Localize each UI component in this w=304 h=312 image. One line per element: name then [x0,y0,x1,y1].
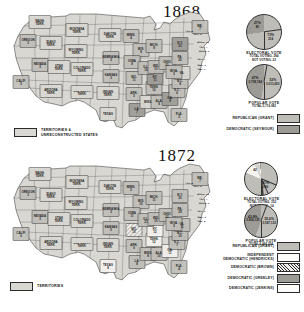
pie-slice-label: 73%214 [258,34,284,42]
legend-swatch [277,125,300,134]
pie-slice-label: 42 [242,169,268,173]
state-label: TERR. [47,43,56,47]
state-electoral-votes: 15 [154,219,158,223]
pie-slice-label: 81%286 [253,182,279,190]
state-electoral-votes: 10 [139,202,143,206]
pie-chart: 81%28642 [244,162,278,196]
state-electoral-votes: 33 [178,44,182,48]
state-label: TEXAS [103,112,113,116]
small-state-label: MASS. 13 [197,193,209,196]
legend-swatch [277,284,300,293]
small-state-label: MD. 8 [199,220,206,223]
state-label: TERR. [36,22,45,26]
territory-legend-label-1868: TERRITORIES &UNRECONSTRUCTED STATES [41,128,98,137]
state-label: TERR. [55,219,64,223]
small-state-label: CONN. 6 [199,202,210,205]
territory-legend-label-1872: TERRITORIES [37,284,63,289]
legend-row: DEMOCRATIC (SEYMOUR) [212,125,300,134]
legend-row: DEMOCRATIC (BROWN) [208,263,300,272]
state-label: TERR. [47,195,56,199]
state-electoral-votes: 10 [152,88,156,92]
legend-label: REPUBLICAN (GRANT) [233,116,274,120]
state-electoral-votes: 11 [132,78,135,82]
small-state-label: VT. 5 [187,30,194,33]
pie-slice-label: 43.8%2,834,125 [240,216,266,224]
state-label: VA. [180,71,185,75]
us-map-1872: WASH.TERR.OREGON3IDAHOTERR.MONTANATERR.D… [4,162,218,287]
small-state-label: MD. 7 [199,68,206,71]
legend-swatch [277,253,300,262]
state-electoral-votes: 29 [178,210,182,214]
legend-swatch [277,263,300,272]
state-label: TERR. [72,51,81,55]
state-electoral-votes: 11 [130,214,133,218]
pie-chart: 55.6%3,597,13243.8%2,834,125 [244,204,278,238]
territory-swatch-1868 [14,128,37,137]
state-label: TERR. [78,92,87,96]
party-legend-1872: REPUBLICAN (GRANT)INDEPENDENTDEMOCRATIC … [208,242,300,295]
state-electoral-votes: 12 [153,230,157,234]
election-map-1868: 1868 WASH.TERR.OREGON3IDAHOTERR.MONTANAT… [0,0,304,156]
legend-label: INDEPENDENTDEMOCRATIC (HENDRICKS) [223,253,274,261]
state-electoral-votes: 16 [144,68,148,72]
territory-legend-1868: TERRITORIES &UNRECONSTRUCTED STATES [14,128,134,137]
popular-vote-pie-1868: 53%3,013,65047%2,708,744POPULAR VOTETOTA… [246,64,282,109]
legend-swatch [277,114,300,123]
state-label: TERR. [73,30,82,34]
state-label: TERR. [47,243,56,247]
pie-chart: 53%3,013,65047%2,708,744 [246,64,282,100]
state-electoral-votes: 12 [152,240,156,244]
legend-swatch [277,274,300,283]
small-state-label: N.H. 5 [194,185,202,188]
legend-row: REPUBLICAN (GRANT) [208,242,300,251]
state-electoral-votes: 11 [152,198,155,202]
small-state-label: R.I. 4 [201,46,208,49]
small-state-label: CONN. 6 [199,50,210,53]
legend-label: DEMOCRATIC (BROWN) [231,265,274,269]
state-electoral-votes: 13 [154,67,158,71]
state-label: TERR. [36,174,45,178]
legend-row: DEMOCRATIC (JENKINS) [208,284,300,293]
party-legend-1868: REPUBLICAN (GRANT)DEMOCRATIC (SEYMOUR) [212,114,300,135]
legend-swatch [277,242,300,251]
legend-label: DEMOCRATIC (GREELEY) [228,276,275,280]
small-state-label: VT. 5 [187,182,194,185]
electoral-vote-pie-1872: 81%28642ELECTORAL VOTETOTAL VOTING- 352N… [244,162,279,209]
election-map-1872: 1872 WASH.TERR.OREGON3IDAHOTERR.MONTANAT… [0,156,304,312]
state-label: TERR. [55,67,64,71]
state-electoral-votes: 15 [132,230,136,234]
state-label: TERR. [78,221,87,225]
state-label: TERR. [72,203,81,207]
pie-caption: POPULAR VOTETOTAL 5,716,082 [246,101,282,109]
state-electoral-votes: 22 [165,215,169,219]
state-label: TERR. [47,91,56,95]
pie-chart: 73%21427%80 [246,14,282,50]
small-state-label: N.J. 7 [199,58,207,61]
legend-label: REPUBLICAN (GRANT) [233,244,274,248]
legend-label: DEMOCRATIC (SEYMOUR) [227,127,274,131]
state-electoral-votes: 35 [178,196,182,200]
state-label: TERR. [78,69,87,73]
us-map-1868: WASH.TERR.OREGON3IDAHOTERR.MONTANATERR.D… [4,10,218,135]
electoral-vote-pie-1868: 73%21427%80ELECTORAL VOTETOTAL VOTING- 2… [246,14,282,63]
small-state-label: DEL. 3 [198,216,207,219]
territory-legend-1872: TERRITORIES [10,282,120,291]
state-electoral-votes: 10 [178,234,182,238]
state-electoral-votes: 11 [153,78,156,82]
popular-vote-pie-1872: 55.6%3,597,13243.8%2,834,125POPULAR VOTE… [244,204,278,247]
state-electoral-votes: 21 [144,220,148,224]
legend-row: REPUBLICAN (GRANT) [212,114,300,123]
state-label: TERR. [78,244,87,248]
state-electoral-votes: 11 [168,251,171,255]
state-label: TERR. [73,182,82,186]
state-electoral-votes: 26 [178,58,182,62]
legend-label: DEMOCRATIC (JENKINS) [229,286,274,290]
state-label: TERR. [106,187,115,191]
pie-slice-label: 47%2,708,744 [242,77,268,85]
legend-row: DEMOCRATIC (GREELEY) [208,274,300,283]
state-label: TERR. [106,35,115,39]
state-electoral-votes: 10 [157,254,161,258]
small-state-label: DEL. 3 [198,64,207,67]
territory-swatch-1872 [10,282,33,291]
state-label: TERR. [104,93,113,97]
